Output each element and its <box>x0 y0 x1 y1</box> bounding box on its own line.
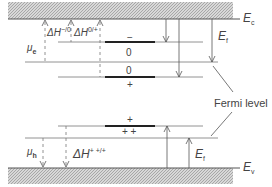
ef-label-lower: Ef <box>195 148 205 162</box>
ev-label: Ev <box>243 161 255 175</box>
ef-label-upper: Ef <box>218 30 228 44</box>
charge-plus-plus: + + <box>122 127 136 137</box>
dh-zero-plus-label: ΔH0/+ <box>74 26 98 38</box>
charge-minus: − <box>127 33 133 43</box>
charge-zero-upper: 0 <box>126 48 132 58</box>
fermi-pointer-upper <box>213 66 233 92</box>
valence-band-hatch <box>8 168 233 184</box>
mu-h-label: μh <box>27 147 37 159</box>
fermi-pointer-lower <box>211 112 232 136</box>
fermi-level-annotation: Fermi level <box>214 98 268 109</box>
dh-pp-p-label: ΔH+ +/+ <box>73 147 106 160</box>
charge-zero-lower: 0 <box>126 66 132 76</box>
conduction-band-hatch <box>8 2 233 19</box>
band-diagram <box>0 0 272 187</box>
mu-e-label: μe <box>27 43 36 55</box>
ec-label: Ec <box>243 12 255 26</box>
charge-plus-lower: + <box>127 115 133 125</box>
charge-plus-upper: + <box>127 80 133 90</box>
dh-minus-zero-label: ΔH−/0 <box>47 26 71 38</box>
